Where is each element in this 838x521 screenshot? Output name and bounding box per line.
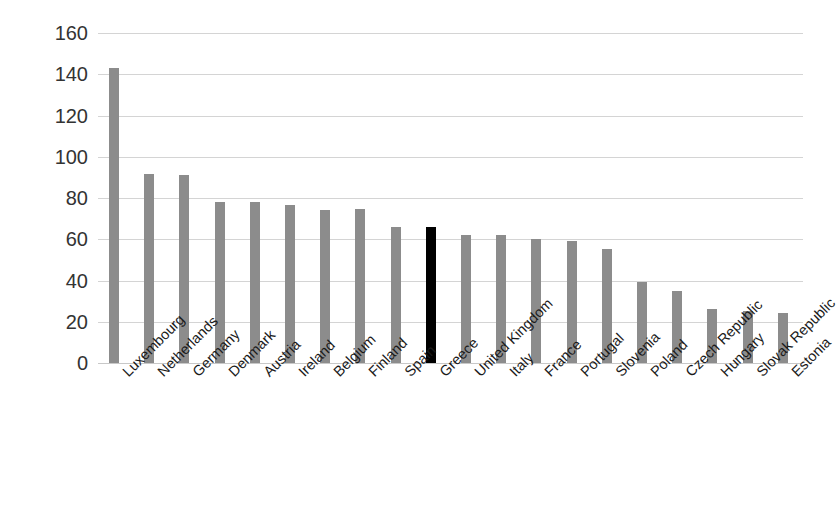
- x-tick-label: Hungary: [718, 369, 729, 380]
- x-tick-label: Denmark: [226, 369, 237, 380]
- gridline-100: [98, 157, 803, 158]
- gridline-160: [98, 33, 803, 34]
- x-tick-label: Czech Republic: [683, 369, 694, 380]
- x-axis: LuxembourgNetherlandsGermanyDenmarkAustr…: [98, 363, 838, 521]
- gridline-120: [98, 116, 803, 117]
- x-tick-label: Estonia: [789, 369, 800, 380]
- gridline-140: [98, 74, 803, 75]
- y-tick-label: 80: [8, 188, 88, 208]
- plot-area: [98, 33, 803, 363]
- x-tick-label: Austria: [261, 369, 272, 380]
- x-tick-label: Spain: [402, 369, 413, 380]
- y-tick-label: 160: [8, 23, 88, 43]
- x-tick-label: United Kingdom: [472, 369, 483, 380]
- x-tick-label: Italy: [507, 369, 518, 380]
- y-tick-label: 20: [8, 312, 88, 332]
- y-tick-label: 140: [8, 64, 88, 84]
- y-axis: 160140120100806040200: [0, 0, 88, 521]
- x-tick-label: Belgium: [331, 369, 342, 380]
- x-tick-label: Portugal: [578, 369, 589, 380]
- x-tick-label: Germany: [190, 369, 201, 380]
- x-tick-label: Poland: [648, 369, 659, 380]
- bar-chart: 160140120100806040200 LuxembourgNetherla…: [0, 0, 838, 521]
- x-tick-label: Luxembourg: [120, 369, 131, 380]
- x-tick-label: Ireland: [296, 369, 307, 380]
- gridline-80: [98, 198, 803, 199]
- x-tick-label: Finland: [366, 369, 377, 380]
- y-tick-label: 0: [8, 353, 88, 373]
- x-tick-label: France: [542, 369, 553, 380]
- x-tick-label: Slovenia: [613, 369, 624, 380]
- y-tick-label: 120: [8, 106, 88, 126]
- y-tick-label: 100: [8, 147, 88, 167]
- bar[interactable]: [109, 68, 119, 363]
- y-tick-label: 60: [8, 229, 88, 249]
- x-tick-label: Slovak Republic: [754, 369, 765, 380]
- gridline-60: [98, 239, 803, 240]
- x-tick-label: Netherlands: [155, 369, 166, 380]
- y-tick-label: 40: [8, 271, 88, 291]
- x-tick-label: Greece: [437, 369, 448, 380]
- gridline-40: [98, 281, 803, 282]
